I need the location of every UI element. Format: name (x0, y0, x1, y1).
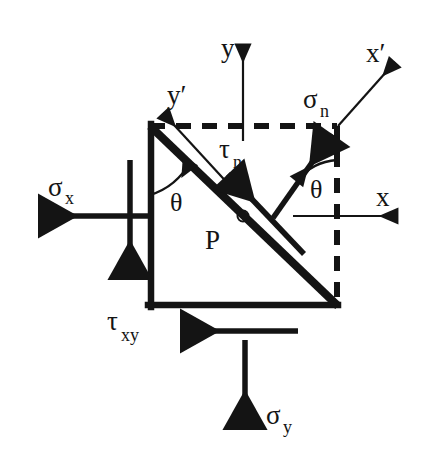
label-tau-n-symbol: τ (219, 134, 230, 164)
label-axis-x-prime: x′ (366, 38, 385, 68)
label-tau-xy-subscript: xy (121, 325, 139, 345)
label-tau-n-subscript: n (233, 152, 242, 172)
label-axis-x: x (376, 182, 390, 212)
label-axis-y-prime: y′ (167, 80, 186, 110)
stress-element-figure: y x x′ y′ σ x σ y σ n τ xy τ n (0, 0, 428, 458)
label-theta-right: θ (310, 175, 322, 204)
label-sigma-y-symbol: σ (266, 400, 281, 430)
label-tau-xy-symbol: τ (107, 306, 118, 336)
label-axis-y: y (221, 33, 235, 63)
label-point-p: P (205, 225, 220, 255)
label-sigma-n: σ n (303, 84, 329, 121)
figure-canvas: y x x′ y′ σ x σ y σ n τ xy τ n (0, 0, 428, 458)
label-sigma-x: σ x (48, 172, 74, 208)
label-sigma-x-subscript: x (65, 188, 74, 208)
label-sigma-n-symbol: σ (303, 84, 318, 114)
label-sigma-y: σ y (266, 400, 292, 437)
label-tau-xy: τ xy (107, 306, 139, 345)
label-tau-n: τ n (219, 134, 242, 172)
label-sigma-y-subscript: y (283, 417, 292, 437)
label-sigma-x-symbol: σ (48, 172, 63, 202)
axis-x-prime-line (338, 62, 395, 126)
label-theta-left: θ (170, 188, 182, 217)
axis-x-prime (338, 62, 395, 126)
label-sigma-n-subscript: n (320, 101, 329, 121)
